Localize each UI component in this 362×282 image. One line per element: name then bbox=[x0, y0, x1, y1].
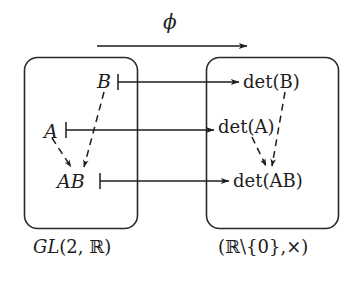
caption-field-symbol: ℝ bbox=[89, 236, 104, 257]
caption-gl-text: GL bbox=[33, 236, 59, 257]
phi-map-label: ϕ bbox=[163, 12, 177, 32]
caption-open-paren: ( bbox=[218, 236, 225, 257]
element-label-det-ab: det(AB) bbox=[233, 172, 303, 190]
determinant-homomorphism-diagram: ϕ A B AB det(B) det(A) det(AB) GL(2, ℝ) … bbox=[0, 0, 362, 282]
element-label-det-b: det(B) bbox=[243, 73, 300, 91]
caption-args-text: (2, bbox=[59, 236, 89, 257]
element-label-ab: AB bbox=[57, 172, 85, 191]
element-label-det-a: det(A) bbox=[218, 118, 274, 136]
element-label-b: B bbox=[97, 72, 111, 91]
caption-close-paren: ) bbox=[301, 236, 308, 257]
maplet-arrow-b bbox=[118, 74, 239, 90]
caption-operation-symbol: × bbox=[286, 236, 301, 257]
left-group-box bbox=[25, 58, 138, 229]
left-group-caption: GL(2, ℝ) bbox=[33, 238, 111, 256]
element-label-a: A bbox=[44, 122, 58, 141]
maplet-arrow-a bbox=[66, 122, 214, 138]
caption-close-text: ) bbox=[104, 236, 111, 257]
caption-field-symbol-right: ℝ bbox=[225, 236, 240, 257]
operation-arrow-deta-to-detab bbox=[252, 137, 266, 166]
maplet-arrow-ab bbox=[100, 173, 229, 189]
caption-exclusion-text: \{0}, bbox=[240, 236, 286, 257]
operation-arrow-a-to-ab bbox=[52, 138, 71, 167]
right-group-caption: (ℝ\{0},×) bbox=[218, 238, 308, 256]
